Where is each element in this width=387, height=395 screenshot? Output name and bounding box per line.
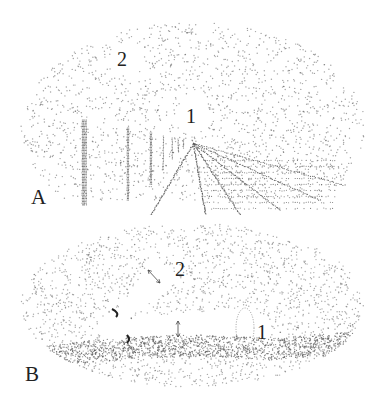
marker-b-1: 1 — [257, 322, 267, 342]
marker-a-2: 2 — [117, 49, 127, 69]
panel-b: B 2 1 — [0, 215, 387, 395]
panel-a-label: A — [31, 187, 46, 208]
panel-b-label: B — [25, 364, 39, 385]
panel-a: A 2 1 — [0, 0, 387, 215]
marker-b-2: 2 — [175, 259, 185, 279]
marker-a-1: 1 — [186, 106, 196, 126]
panel-b-stipple-illustration — [0, 215, 387, 395]
